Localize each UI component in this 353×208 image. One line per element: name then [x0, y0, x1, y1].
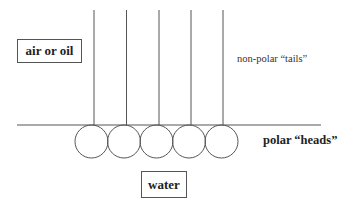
upper-phase-box: air or oil	[17, 39, 82, 63]
tails-group	[94, 10, 223, 125]
upper-phase-label: air or oil	[26, 43, 74, 59]
head-circle-2	[108, 125, 141, 158]
head-circle-5	[205, 125, 238, 158]
head-circle-4	[173, 125, 206, 158]
lower-phase-label: water	[148, 177, 180, 193]
heads-label: polar “heads”	[263, 133, 337, 148]
lower-phase-box: water	[141, 171, 187, 198]
tails-label: non-polar “tails”	[237, 53, 307, 64]
head-circle-3	[140, 125, 173, 158]
heads-group	[75, 125, 238, 158]
head-circle-1	[75, 125, 108, 158]
surfactant-interface-diagram: air or oil water non-polar “tails” polar…	[0, 0, 353, 208]
